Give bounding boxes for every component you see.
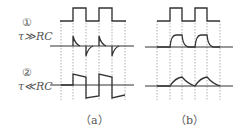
case2-condition: τ≪RC [18, 80, 53, 93]
case1-condition: τ≫RC [18, 30, 53, 43]
panel-a-case2-waveform [61, 74, 125, 98]
caption-a: （a） [80, 111, 109, 127]
panel-b-case2-humps [157, 77, 220, 86]
case1-marker: ① [22, 16, 32, 29]
caption-b: （b） [175, 111, 204, 127]
panel-b-case1-pulses [157, 35, 220, 47]
case2-marker: ② [22, 66, 32, 79]
panel-a-guides [61, 8, 125, 100]
panel-a-input-square-wave [60, 8, 126, 21]
panel-b-input-square-wave [157, 8, 220, 21]
